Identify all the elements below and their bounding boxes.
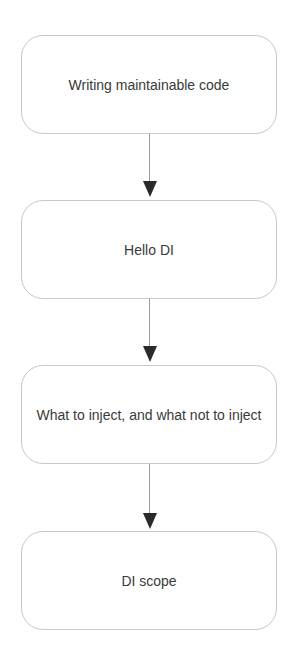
node-di-scope: DI scope (21, 531, 277, 630)
node-hello-di: Hello DI (21, 200, 277, 299)
node-label: Hello DI (124, 241, 174, 259)
edge-line (149, 134, 150, 182)
arrow-down-icon (143, 513, 157, 529)
edge-line (149, 299, 150, 347)
node-label: Writing maintainable code (69, 76, 230, 94)
node-writing-maintainable-code: Writing maintainable code (21, 35, 277, 134)
edge-line (149, 464, 150, 514)
arrow-down-icon (143, 181, 157, 197)
arrow-down-icon (143, 346, 157, 362)
node-what-to-inject: What to inject, and what not to inject (21, 365, 277, 464)
node-label: DI scope (121, 572, 176, 590)
node-label: What to inject, and what not to inject (37, 406, 262, 424)
